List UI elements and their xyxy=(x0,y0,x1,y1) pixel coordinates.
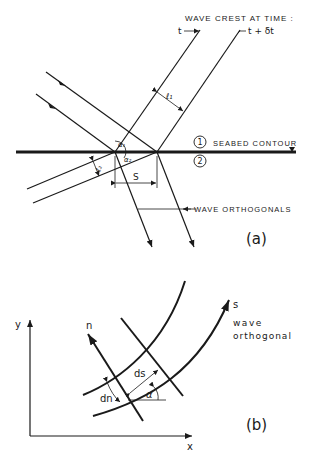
l1-label: ℓ₁ xyxy=(165,92,173,101)
time-t-label: t xyxy=(178,26,182,36)
y-axis-label: y xyxy=(15,319,21,330)
wave-orthogonal-label-1: wave xyxy=(233,318,263,328)
wave-orthogonal-label-2: orthogonal xyxy=(233,331,292,341)
wave-orthogonal-s-curve xyxy=(93,300,229,416)
alpha1-label: α₁ xyxy=(118,141,126,149)
region-1-label: 1 xyxy=(197,138,202,147)
region-2-label: 2 xyxy=(197,157,202,166)
figure-b: y x s wave orthogonal n ds dn α (b) xyxy=(15,281,292,452)
wave-crest-t-dt xyxy=(157,30,240,152)
time-t-dt-label: t + δt xyxy=(248,26,274,36)
crest-line-2 xyxy=(121,318,183,396)
l2-label: ℓ₂ xyxy=(94,164,104,173)
ds-label: ds xyxy=(134,368,146,379)
panel-a-label: (a) xyxy=(246,230,267,248)
alpha-label: α xyxy=(146,389,153,400)
x-axis-label: x xyxy=(187,441,193,452)
wave-crest-t xyxy=(115,30,200,152)
s-axis-label: s xyxy=(233,299,238,310)
figure-a: WAVE CREST AT TIME : t t + δt ℓ₁ 1 2 SEA… xyxy=(16,14,297,248)
panel-b-label: (b) xyxy=(246,416,267,434)
wave-crest-title: WAVE CREST AT TIME : xyxy=(185,14,294,23)
dn-label: dn xyxy=(100,393,113,404)
refracted-orthogonal-1 xyxy=(115,152,152,247)
n-axis-label: n xyxy=(86,320,92,331)
seabed-contour-label: SEABED CONTOUR xyxy=(213,139,297,148)
refracted-orthogonal-2 xyxy=(157,152,194,247)
incident-orthogonal-2 xyxy=(36,94,115,152)
s-label: S xyxy=(133,172,139,182)
wave-refraction-diagram: WAVE CREST AT TIME : t t + δt ℓ₁ 1 2 SEA… xyxy=(0,0,311,463)
wave-orthogonals-label: WAVE ORTHOGONALS xyxy=(194,205,292,214)
